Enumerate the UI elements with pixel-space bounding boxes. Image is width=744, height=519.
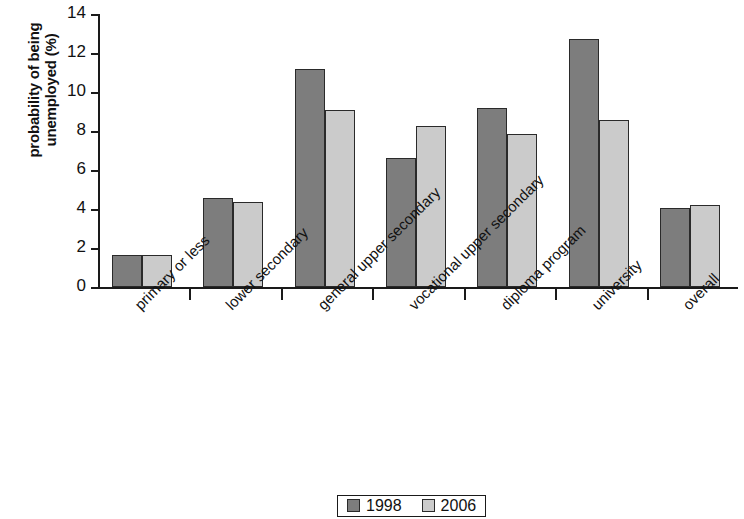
x-axis-label-diploma-program: diploma program bbox=[497, 221, 589, 313]
x-axis-label-primary-or-less: primary or less bbox=[131, 231, 213, 313]
legend-label: 1998 bbox=[366, 498, 402, 514]
dark-gray-swatch-icon bbox=[347, 499, 360, 512]
legend-item-1998: 1998 bbox=[347, 498, 402, 514]
x-axis-label-lower-secondary: lower secondary bbox=[222, 224, 311, 313]
x-axis-label-overall: overall bbox=[679, 270, 722, 313]
bar-chart-figure: probability of being unemployed (%) 0246… bbox=[0, 0, 744, 519]
x-axis-category-labels: primary or lesslower secondarygeneral up… bbox=[0, 0, 744, 519]
light-gray-swatch-icon bbox=[422, 499, 435, 512]
chart-legend: 19982006 bbox=[337, 495, 486, 517]
x-axis-label-university: university bbox=[588, 256, 645, 313]
legend-label: 2006 bbox=[441, 498, 477, 514]
legend-item-2006: 2006 bbox=[422, 498, 477, 514]
